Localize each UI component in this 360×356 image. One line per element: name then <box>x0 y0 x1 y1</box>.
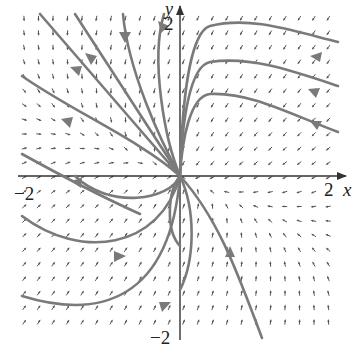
field-arrowhead-icon <box>139 290 141 293</box>
field-arrowhead-icon <box>240 218 242 221</box>
field-arrowhead-icon <box>197 18 199 21</box>
field-arrowhead-icon <box>139 33 141 36</box>
field-arrowhead-icon <box>96 105 98 108</box>
field-arrowhead-icon <box>139 262 141 265</box>
field-arrowhead-icon <box>139 105 141 108</box>
field-arrowhead-icon <box>39 119 42 121</box>
field-arrowhead-icon <box>282 205 285 207</box>
field-arrowhead-icon <box>95 91 97 94</box>
field-arrowhead-icon <box>168 62 170 65</box>
field-arrowhead-icon <box>110 18 112 21</box>
field-arrowhead-icon <box>81 105 83 108</box>
field-arrowhead-icon <box>153 91 155 94</box>
field-arrowhead-icon <box>255 261 257 264</box>
field-arrowhead-icon <box>197 47 199 50</box>
field-arrowhead-icon <box>327 290 329 293</box>
field-arrowhead-icon <box>226 305 228 308</box>
field-arrowhead-icon <box>168 261 170 264</box>
field-arrowhead-icon <box>241 319 243 322</box>
field-arrowhead-icon <box>211 76 213 79</box>
field-arrowhead-icon <box>154 290 156 293</box>
field-arrowhead-icon <box>153 18 155 21</box>
field-arrowhead-icon <box>153 105 155 108</box>
field-arrowhead-icon <box>226 261 228 264</box>
field-arrowhead-icon <box>212 232 214 235</box>
field-arrowhead-icon <box>284 247 286 250</box>
field-arrowhead-icon <box>240 247 242 250</box>
field-arrowhead-icon <box>139 305 141 308</box>
field-arrowhead-icon <box>226 276 228 279</box>
field-arrowhead-icon <box>197 33 199 36</box>
field-arrowhead-icon <box>124 120 126 123</box>
field-arrowhead-icon <box>23 62 25 65</box>
y-min-tick-label: −2 <box>150 328 170 347</box>
field-arrowhead-icon <box>183 290 185 293</box>
field-arrowhead-icon <box>298 276 300 279</box>
field-arrowhead-icon <box>66 33 68 36</box>
field-arrowhead-icon <box>52 76 54 79</box>
field-arrowhead-icon <box>139 135 141 138</box>
field-arrowhead-icon <box>241 290 243 293</box>
field-arrowhead-icon <box>296 205 299 207</box>
field-arrowhead-icon <box>52 33 54 36</box>
field-arrowhead-icon <box>197 276 199 279</box>
field-arrowhead-icon <box>311 206 314 208</box>
arrow-icon <box>114 251 126 262</box>
field-arrowhead-icon <box>209 177 212 179</box>
arrow-icon <box>308 88 320 98</box>
field-arrowhead-icon <box>54 147 57 149</box>
field-arrowhead-icon <box>139 120 141 123</box>
trajectory-t5b <box>75 176 180 198</box>
field-arrowhead-icon <box>197 261 199 264</box>
field-arrowhead-icon <box>82 162 85 164</box>
field-arrowhead-icon <box>212 276 214 279</box>
field-arrowhead-icon <box>67 91 69 94</box>
field-arrowhead-icon <box>183 218 185 221</box>
field-arrowhead-icon <box>153 62 155 65</box>
field-arrowhead-icon <box>168 105 170 108</box>
field-arrowhead-icon <box>81 33 83 36</box>
field-arrowhead-icon <box>212 319 214 322</box>
field-arrowhead-icon <box>212 290 214 293</box>
field-arrowhead-icon <box>53 162 56 164</box>
field-arrowhead-icon <box>325 206 328 208</box>
field-arrowhead-icon <box>212 261 214 264</box>
field-arrowhead-icon <box>154 319 156 322</box>
field-arrowhead-icon <box>52 91 54 94</box>
field-arrowhead-icon <box>197 203 199 206</box>
field-arrowhead-icon <box>125 305 127 308</box>
field-arrowhead-icon <box>139 62 141 65</box>
field-arrowhead-icon <box>211 203 213 206</box>
field-arrowhead-icon <box>270 319 272 322</box>
field-arrowhead-icon <box>296 220 299 222</box>
field-arrowhead-icon <box>267 191 270 193</box>
field-arrowhead-icon <box>95 18 97 21</box>
arrow-icon <box>310 52 322 62</box>
phase-portrait <box>0 0 360 356</box>
field-arrowhead-icon <box>38 48 40 51</box>
field-arrowhead-icon <box>168 120 170 123</box>
field-arrowhead-icon <box>97 162 100 164</box>
field-arrowhead-icon <box>154 305 156 308</box>
arrow-icon <box>85 53 97 65</box>
field-arrowhead-icon <box>298 305 300 308</box>
field-arrowhead-icon <box>284 261 286 264</box>
field-arrowhead-icon <box>327 276 329 279</box>
field-arrowhead-icon <box>196 120 198 123</box>
field-arrowhead-icon <box>255 276 257 279</box>
field-arrowhead-icon <box>38 76 40 79</box>
field-arrowhead-icon <box>212 247 214 250</box>
field-arrowhead-icon <box>111 162 114 164</box>
arrow-icon <box>71 178 82 188</box>
field-arrowhead-icon <box>153 76 155 79</box>
field-arrowhead-icon <box>225 62 227 65</box>
field-arrowhead-icon <box>168 319 170 322</box>
field-arrowhead-icon <box>195 177 198 179</box>
field-arrowhead-icon <box>284 276 286 279</box>
field-arrowhead-icon <box>111 148 114 150</box>
field-arrowhead-icon <box>110 62 112 65</box>
field-arrowhead-icon <box>53 133 56 135</box>
field-arrowhead-icon <box>139 18 141 21</box>
field-arrowhead-icon <box>226 290 228 293</box>
field-arrowhead-icon <box>197 305 199 308</box>
